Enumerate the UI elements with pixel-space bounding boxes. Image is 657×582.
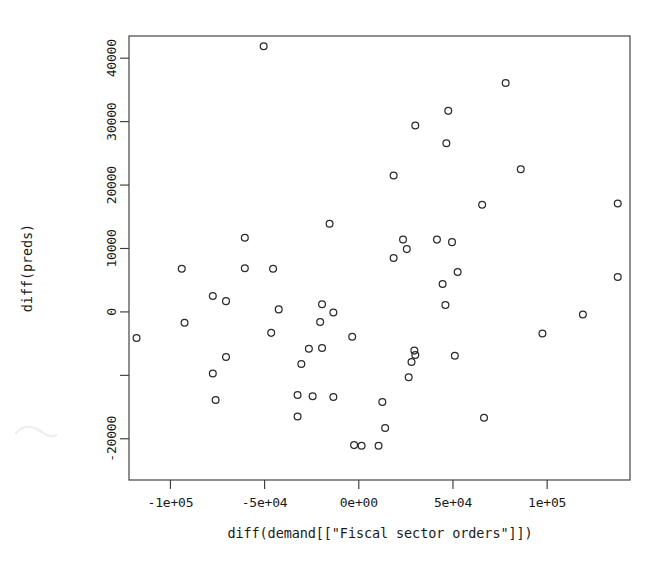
scatter-point <box>439 281 446 288</box>
scatter-point <box>445 107 452 114</box>
scatter-point <box>403 246 410 253</box>
y-axis-title: diff(preds) <box>19 224 35 312</box>
scatter-point <box>451 352 458 359</box>
y-tick-label: 40000 <box>105 39 120 77</box>
scatter-point <box>375 442 382 449</box>
x-tick-label: 5e+04 <box>434 495 473 510</box>
y-tick-label: 20000 <box>105 166 120 204</box>
scatter-point <box>298 361 305 368</box>
scatter-point <box>454 269 461 276</box>
scatter-point <box>358 442 365 449</box>
scatter-point <box>330 309 337 316</box>
scatter-point <box>223 354 230 361</box>
plot-canvas: -1e+05-5e+040e+005e+041e+05-200000100002… <box>0 0 657 582</box>
scatter-point <box>379 399 386 406</box>
scatter-point <box>502 80 509 87</box>
scatter-point <box>275 306 282 313</box>
scatter-plot-figure: -1e+05-5e+040e+005e+041e+05-200000100002… <box>0 0 657 582</box>
x-tick-label: 0e+00 <box>340 495 378 510</box>
y-tick-label: 10000 <box>105 229 120 267</box>
scatter-point <box>614 200 621 207</box>
scatter-point <box>580 311 587 318</box>
scatter-point <box>400 236 407 243</box>
scatter-point <box>223 298 230 305</box>
scatter-point <box>212 397 219 404</box>
scatter-point <box>390 255 397 262</box>
y-tick-label: -20000 <box>105 416 120 462</box>
x-axis-title: diff(demand[["Fiscal sector orders"]]) <box>227 525 532 541</box>
scatter-point <box>614 274 621 281</box>
x-tick-label: -1e+05 <box>148 495 194 510</box>
scatter-point <box>434 236 441 243</box>
scatter-point <box>330 394 337 401</box>
scatter-point <box>405 374 412 381</box>
scatter-point <box>481 414 488 421</box>
scatter-point <box>260 43 267 50</box>
scatter-point <box>305 345 312 352</box>
scatter-point <box>294 413 301 420</box>
scatter-point <box>326 220 333 227</box>
scatter-point <box>349 333 356 340</box>
scatter-point <box>442 302 449 309</box>
scatter-point <box>319 301 326 308</box>
x-tick-label: 1e+05 <box>528 495 566 510</box>
scatter-point <box>517 166 524 173</box>
scatter-point <box>412 122 419 129</box>
scatter-point <box>449 239 456 246</box>
scatter-point <box>268 329 275 336</box>
data-point-layer <box>133 43 621 449</box>
scatter-point <box>408 359 415 366</box>
y-tick-label: 30000 <box>105 103 120 141</box>
scatter-point <box>294 392 301 399</box>
scatter-point <box>443 140 450 147</box>
scatter-point <box>209 293 216 300</box>
scatter-point <box>479 201 486 208</box>
scatter-point <box>133 335 140 342</box>
scatter-point <box>181 319 188 326</box>
scatter-point <box>351 442 358 449</box>
tick-label-layer: -1e+05-5e+040e+005e+041e+05-200000100002… <box>105 39 567 510</box>
scatter-point <box>209 370 216 377</box>
scatter-point <box>390 172 397 179</box>
plot-frame-box <box>129 36 630 480</box>
scatter-point <box>241 265 248 272</box>
y-tick-label: 0 <box>105 308 120 316</box>
scatter-point <box>309 393 316 400</box>
paper-smudge-artifact <box>16 427 56 436</box>
scatter-point <box>241 234 248 241</box>
scatter-point <box>382 425 389 432</box>
scatter-point <box>412 352 419 359</box>
scatter-point <box>317 319 324 326</box>
scatter-point <box>178 265 185 272</box>
scatter-point <box>270 265 277 272</box>
x-tick-label: -5e+04 <box>242 495 288 510</box>
scatter-point <box>319 345 326 352</box>
axis-tick-marks <box>120 58 547 489</box>
scatter-point <box>539 330 546 337</box>
